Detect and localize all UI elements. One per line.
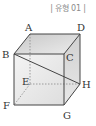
vertex-label-B: B bbox=[2, 49, 9, 60]
vertex-label-E: E bbox=[22, 76, 29, 87]
cuboid-diagram: A D B C E H F G bbox=[0, 0, 96, 126]
vertex-label-A: A bbox=[24, 22, 33, 33]
vertex-label-D: D bbox=[77, 22, 85, 33]
vertex-label-H: H bbox=[82, 79, 91, 90]
vertex-label-G: G bbox=[63, 110, 71, 121]
vertex-label-C: C bbox=[66, 52, 74, 63]
vertex-label-F: F bbox=[3, 100, 10, 111]
